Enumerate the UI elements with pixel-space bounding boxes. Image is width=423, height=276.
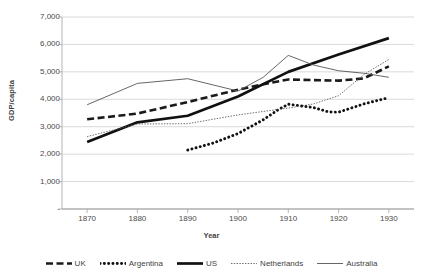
legend-item-argentina[interactable]: Argentina — [100, 259, 163, 268]
legend-item-australia[interactable]: Australia — [317, 259, 377, 268]
legend-swatch-netherlands — [231, 259, 257, 268]
gdp-per-capita-line-chart: GDP/capita Year -1,0002,0003,0004,0005,0… — [0, 0, 423, 276]
legend-label: UK — [75, 259, 86, 268]
legend-item-uk[interactable]: UK — [46, 259, 86, 268]
legend-label: Netherlands — [260, 259, 303, 268]
legend-item-netherlands[interactable]: Netherlands — [231, 259, 303, 268]
plot-area — [0, 0, 423, 276]
legend-swatch-us — [177, 259, 203, 268]
legend-label: US — [206, 259, 217, 268]
legend-swatch-argentina — [100, 259, 126, 268]
legend-label: Argentina — [129, 259, 163, 268]
legend-item-us[interactable]: US — [177, 259, 217, 268]
legend-swatch-australia — [317, 259, 343, 268]
legend-label: Australia — [346, 259, 377, 268]
legend-swatch-uk — [46, 259, 72, 268]
chart-legend: UKArgentinaUSNetherlandsAustralia — [0, 253, 423, 273]
